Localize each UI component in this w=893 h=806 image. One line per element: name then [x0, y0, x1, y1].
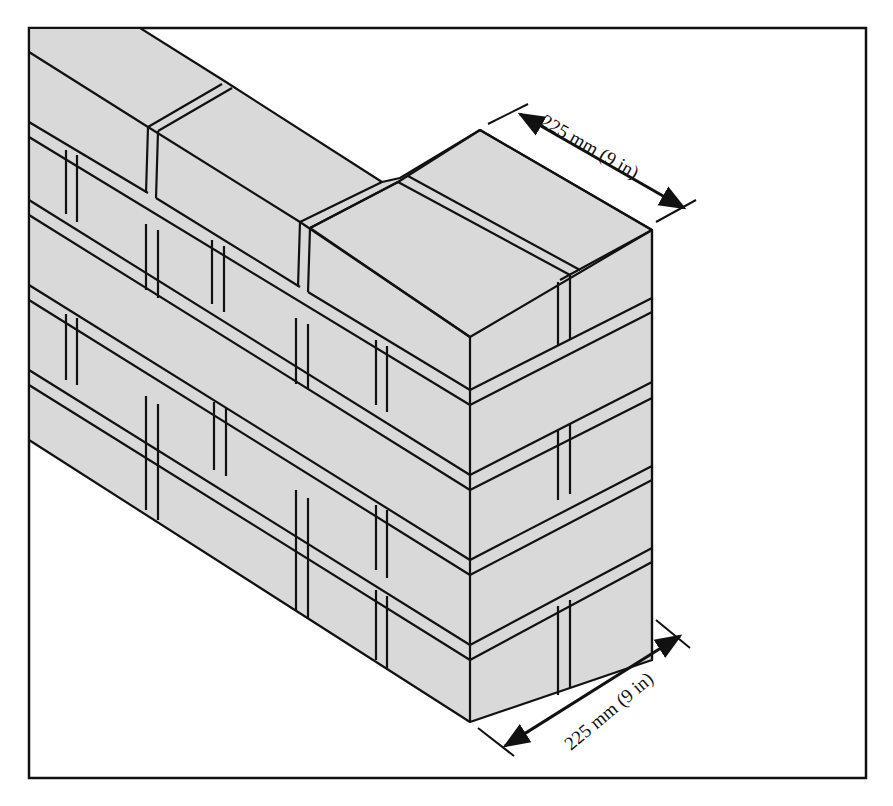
brick-wall-diagram	[0, 0, 893, 806]
